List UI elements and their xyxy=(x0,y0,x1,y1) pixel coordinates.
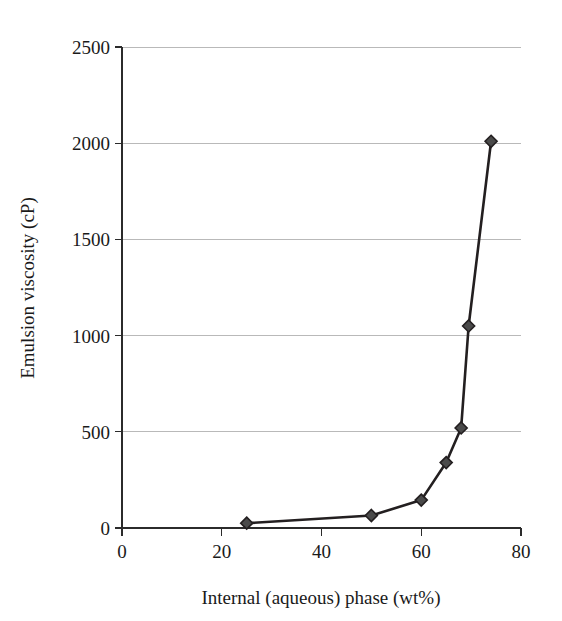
x-axis-title: Internal (aqueous) phase (wt%) xyxy=(202,587,441,609)
x-tick-label: 20 xyxy=(212,541,231,562)
y-tick-label: 2500 xyxy=(72,37,110,58)
x-tick-label: 40 xyxy=(312,541,331,562)
y-tick-label: 0 xyxy=(101,518,111,539)
x-tick-label: 60 xyxy=(412,541,431,562)
x-tick-label: 80 xyxy=(512,541,531,562)
x-tick-label: 0 xyxy=(117,541,127,562)
y-tick-label: 500 xyxy=(82,422,111,443)
y-tick-label: 2000 xyxy=(72,133,110,154)
y-tick-label: 1500 xyxy=(72,229,110,250)
y-axis-title: Emulsion viscosity (cP) xyxy=(17,197,39,379)
chart-figure: 05001000150020002500 020406080 Internal … xyxy=(0,0,562,621)
emulsion-viscosity-chart: 05001000150020002500 020406080 Internal … xyxy=(0,0,562,621)
y-tick-label: 1000 xyxy=(72,326,110,347)
